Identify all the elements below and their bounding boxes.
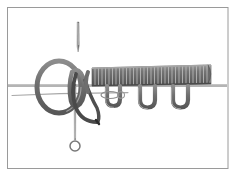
upper-needle — [77, 22, 79, 52]
figure-root: Rope whipping and loop knot illustration… — [0, 0, 236, 171]
whipped-coil-section — [92, 65, 211, 86]
coil-start-turn — [86, 72, 88, 92]
knot-illustration-canvas — [0, 0, 236, 171]
